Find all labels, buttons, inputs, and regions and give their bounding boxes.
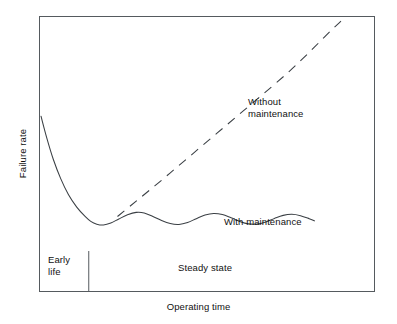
without-maintenance-label: Without maintenance: [248, 96, 304, 119]
early-life-label: Early life: [48, 254, 70, 277]
y-axis-label: Failure rate: [17, 110, 28, 198]
without-maintenance-curve: [117, 17, 345, 216]
x-axis-label: Operating time: [0, 301, 397, 312]
with-maintenance-curve: [41, 116, 315, 225]
failure-rate-chart: Failure rate Operating time Without main…: [0, 0, 397, 324]
with-maintenance-label: With maintenance: [224, 216, 302, 228]
steady-state-label: Steady state: [178, 262, 232, 274]
